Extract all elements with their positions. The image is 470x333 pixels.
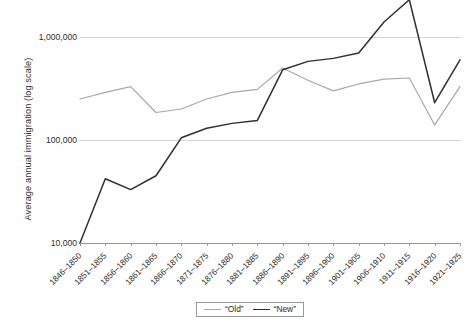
legend-label-new: “New” — [274, 305, 296, 313]
legend-entry-old[interactable]: “Old” — [204, 305, 244, 313]
immigration-line-chart: Average annual immigration (log scale) 1… — [0, 0, 470, 333]
y-tick-label-10000: 10,000 — [51, 238, 77, 248]
y-tick-label-100000: 100,000 — [46, 135, 77, 145]
series-lines — [79, 10, 461, 243]
legend-line-swatch-old — [204, 309, 221, 310]
y-tick-label-1000000: 1,000,000 — [39, 32, 77, 42]
legend-line-swatch-new — [253, 309, 270, 310]
chart-legend: “Old” “New” — [196, 302, 304, 317]
series-line-new — [80, 0, 460, 243]
legend-label-old: “Old” — [225, 305, 244, 313]
legend-entry-new[interactable]: “New” — [253, 305, 296, 313]
x-axis-line — [79, 243, 461, 244]
plot-area — [79, 10, 461, 243]
